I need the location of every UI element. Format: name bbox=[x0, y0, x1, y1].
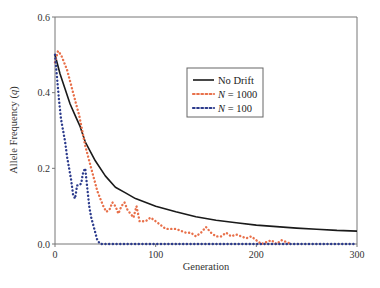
y-axis-title: Allele Frequency (q) bbox=[8, 86, 20, 174]
legend-label-n100: N = 100 bbox=[217, 103, 252, 114]
x-tick-label: 200 bbox=[249, 249, 264, 260]
legend-label-no-drift: No Drift bbox=[218, 75, 254, 86]
x-tick-label: 0 bbox=[53, 249, 58, 260]
y-tick-label: 0.6 bbox=[38, 12, 51, 23]
x-axis-title: Generation bbox=[183, 261, 230, 272]
x-tick-label: 300 bbox=[350, 249, 365, 260]
y-tick-label: 0.4 bbox=[38, 87, 51, 98]
plot-area bbox=[55, 17, 357, 244]
y-tick-label: 0.2 bbox=[38, 163, 51, 174]
x-tick-label: 100 bbox=[148, 249, 163, 260]
y-axis-ticks: 0.00.20.40.6 bbox=[38, 12, 56, 250]
legend-label-n1000: N = 1000 bbox=[217, 89, 257, 100]
allele-frequency-chart: 0.00.20.40.6 0100200300 Generation Allel… bbox=[0, 0, 380, 288]
x-axis-ticks: 0100200300 bbox=[53, 244, 365, 260]
legend: No Drift N = 1000 N = 100 bbox=[187, 68, 263, 117]
y-tick-label: 0.0 bbox=[38, 239, 51, 250]
